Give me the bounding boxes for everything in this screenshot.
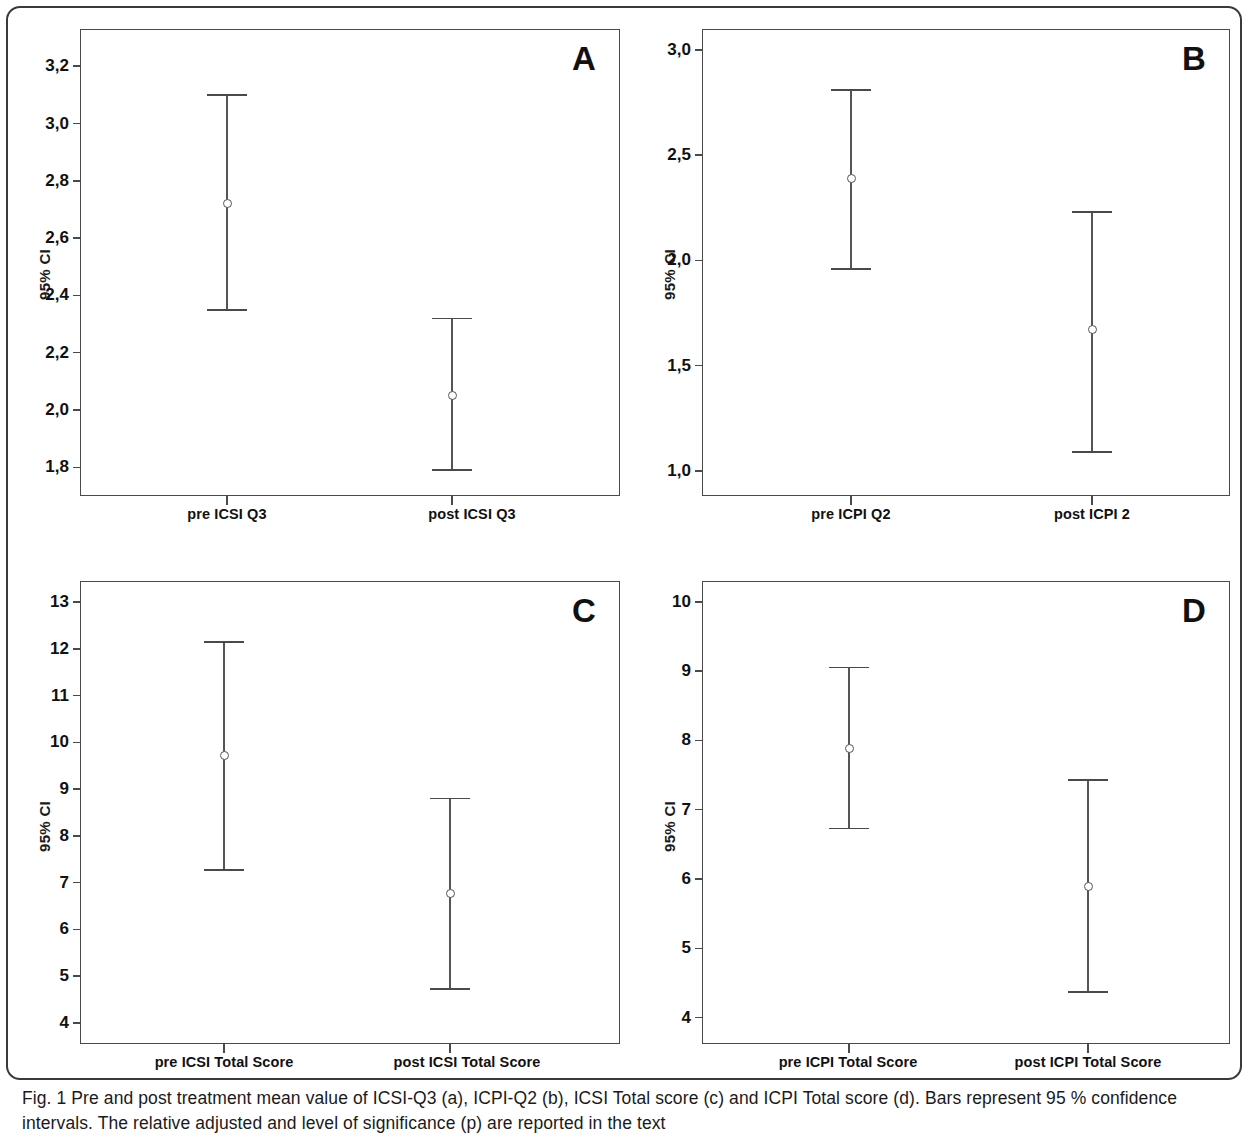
mean-value-marker: [845, 744, 854, 753]
y-tick-label: 2,0: [636, 251, 691, 268]
y-tick-label: 4: [14, 1014, 69, 1031]
panel-a-x-label-2: post ICSI Q3: [382, 506, 562, 522]
y-tick-mark: [695, 670, 702, 672]
error-bar-upper-cap: [829, 667, 869, 669]
y-tick-label: 2,8: [14, 172, 69, 189]
y-tick-label: 11: [14, 687, 69, 704]
panel-b-x-label-2: post ICPI 2: [1002, 506, 1182, 522]
error-bar-lower-cap: [204, 869, 244, 871]
y-tick-label: 3,0: [14, 115, 69, 132]
y-tick-mark: [695, 948, 702, 950]
mean-value-marker: [1088, 325, 1097, 334]
panel-c-plot-area: [80, 581, 620, 1044]
y-tick-label: 7: [636, 801, 691, 818]
y-tick-mark: [73, 409, 80, 411]
y-tick-mark: [73, 695, 80, 697]
error-bar-upper-cap: [207, 94, 247, 96]
y-tick-label: 2,2: [14, 344, 69, 361]
mean-value-marker: [448, 391, 457, 400]
y-tick-mark: [695, 470, 702, 472]
panel-a-letter: A: [572, 40, 596, 78]
x-tick-mark: [1087, 1044, 1089, 1053]
y-tick-mark: [73, 742, 80, 744]
x-tick-mark: [1091, 496, 1093, 505]
error-bar-lower-cap: [831, 268, 871, 270]
mean-value-marker: [1084, 882, 1093, 891]
y-tick-label: 10: [636, 593, 691, 610]
y-tick-label: 2,6: [14, 229, 69, 246]
y-tick-label: 9: [636, 662, 691, 679]
panel-c-x-label-1: pre ICSI Total Score: [124, 1054, 324, 1070]
y-tick-label: 5: [636, 939, 691, 956]
y-tick-label: 3,2: [14, 57, 69, 74]
error-bar-upper-cap: [204, 641, 244, 643]
y-tick-mark: [695, 740, 702, 742]
error-bar-upper-cap: [1072, 211, 1112, 213]
y-tick-label: 2,0: [14, 401, 69, 418]
y-tick-label: 5: [14, 967, 69, 984]
panel-d-x-label-1: pre ICPI Total Score: [748, 1054, 948, 1070]
y-tick-mark: [73, 788, 80, 790]
caption-line-1: Fig. 1 Pre and post treatment mean value…: [22, 1088, 1177, 1108]
panel-grid: A 95% CI 1,82,02,22,42,62,83,03,2 pre IC…: [0, 0, 1249, 1080]
y-tick-label: 10: [14, 733, 69, 750]
panel-a-x-label-1: pre ICSI Q3: [137, 506, 317, 522]
y-tick-label: 13: [14, 593, 69, 610]
y-tick-mark: [73, 835, 80, 837]
x-tick-mark: [848, 1044, 850, 1053]
y-tick-mark: [73, 295, 80, 297]
y-tick-mark: [695, 1017, 702, 1019]
mean-value-marker: [223, 199, 232, 208]
y-tick-mark: [73, 123, 80, 125]
y-tick-mark: [73, 352, 80, 354]
panel-a-plot-area: [80, 29, 620, 496]
panel-d-x-label-2: post ICPI Total Score: [988, 1054, 1188, 1070]
y-tick-mark: [73, 65, 80, 67]
y-tick-label: 7: [14, 874, 69, 891]
mean-value-marker: [847, 174, 856, 183]
error-bar-lower-cap: [430, 988, 470, 990]
panel-d-letter: D: [1182, 592, 1206, 630]
y-tick-mark: [73, 975, 80, 977]
y-tick-mark: [73, 1022, 80, 1024]
error-bar-upper-cap: [1068, 779, 1108, 781]
error-bar-upper-cap: [432, 318, 472, 320]
y-tick-label: 2,4: [14, 286, 69, 303]
panel-b-x-label-1: pre ICPI Q2: [761, 506, 941, 522]
error-bar-lower-cap: [432, 469, 472, 471]
y-tick-label: 8: [14, 827, 69, 844]
error-bar-upper-cap: [430, 798, 470, 800]
panel-d-plot-area: [702, 581, 1230, 1044]
y-tick-label: 6: [14, 920, 69, 937]
y-tick-label: 12: [14, 640, 69, 657]
y-tick-mark: [73, 648, 80, 650]
x-tick-mark: [850, 496, 852, 505]
error-bar-lower-cap: [207, 309, 247, 311]
mean-value-marker: [220, 751, 229, 760]
x-tick-mark: [223, 1044, 225, 1053]
y-tick-mark: [695, 878, 702, 880]
mean-value-marker: [446, 889, 455, 898]
y-tick-label: 1,0: [636, 462, 691, 479]
y-tick-label: 2,5: [636, 146, 691, 163]
figure-root: A 95% CI 1,82,02,22,42,62,83,03,2 pre IC…: [0, 0, 1249, 1144]
y-tick-mark: [73, 180, 80, 182]
y-tick-label: 1,8: [14, 458, 69, 475]
panel-c-x-label-2: post ICSI Total Score: [367, 1054, 567, 1070]
y-tick-mark: [695, 809, 702, 811]
y-tick-label: 8: [636, 731, 691, 748]
y-tick-mark: [695, 365, 702, 367]
y-tick-label: 4: [636, 1009, 691, 1026]
y-tick-mark: [73, 237, 80, 239]
y-tick-mark: [73, 467, 80, 469]
y-tick-mark: [695, 260, 702, 262]
y-tick-label: 1,5: [636, 357, 691, 374]
y-tick-label: 9: [14, 780, 69, 797]
y-tick-mark: [695, 601, 702, 603]
caption-line-2: intervals. The relative adjusted and lev…: [22, 1113, 666, 1133]
panel-b-letter: B: [1182, 40, 1206, 78]
y-tick-label: 3,0: [636, 41, 691, 58]
x-tick-mark: [449, 1044, 451, 1053]
y-tick-mark: [695, 154, 702, 156]
y-tick-mark: [73, 882, 80, 884]
